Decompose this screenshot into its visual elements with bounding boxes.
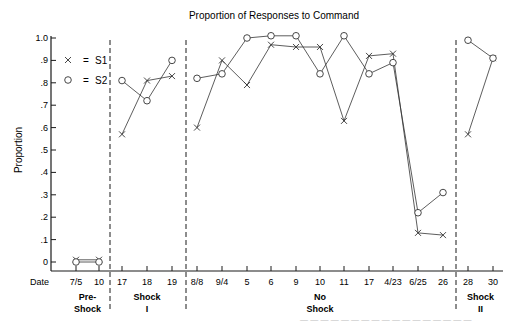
- phase-label: Shock: [467, 292, 495, 302]
- x-tick-label: 26: [438, 277, 448, 287]
- y-tick-label: .3: [40, 190, 48, 200]
- chart-title: Proportion of Responses to Command: [189, 10, 359, 21]
- x-tick-label: 9: [293, 277, 298, 287]
- circle-marker-icon: [293, 32, 300, 39]
- circle-marker-icon: [244, 35, 251, 42]
- x-tick-label: 11: [339, 277, 348, 287]
- y-tick-label: .8: [40, 78, 48, 88]
- x-tick-label: 18: [142, 277, 152, 287]
- phase-label: Shock: [133, 292, 161, 302]
- x-tick-label: 28: [463, 277, 473, 287]
- circle-marker-icon: [144, 97, 151, 104]
- x-tick-label: 7/5: [70, 277, 83, 287]
- x-tick-label: 10: [315, 277, 325, 287]
- x-marker-icon: [119, 131, 125, 137]
- x-axis: 7/5101718198/89/45691011174/236/25262830: [51, 266, 503, 287]
- cropped-caption: — — — — — — — — — — — — — — — — —: [300, 315, 472, 323]
- circle-marker-icon: [219, 71, 226, 78]
- y-tick-label: .7: [40, 100, 48, 110]
- line-chart: Proportion of Responses to Command Propo…: [0, 0, 516, 323]
- phase-dividers: [110, 40, 456, 310]
- phase-label: No: [314, 292, 326, 302]
- circle-marker-icon: [490, 55, 497, 62]
- circle-marker-icon: [169, 57, 176, 64]
- y-tick-label: .6: [40, 123, 48, 133]
- phase-label: Shock: [74, 304, 102, 314]
- x-tick-label: 17: [117, 277, 127, 287]
- x-tick-label: 10: [94, 277, 104, 287]
- x-marker-icon: [65, 57, 71, 63]
- x-marker-icon: [219, 57, 225, 63]
- circle-marker-icon: [317, 71, 324, 78]
- y-tick-label: 1.0: [35, 33, 48, 43]
- phase-label: I: [146, 304, 149, 314]
- circle-marker-icon: [119, 77, 126, 84]
- legend-equals: =: [83, 75, 89, 86]
- x-tick-label: 8/8: [191, 277, 204, 287]
- y-tick-label: .4: [40, 167, 48, 177]
- phase-labels: Pre-ShockShockINoShockShockII: [74, 292, 495, 314]
- x-tick-label: 17: [364, 277, 374, 287]
- phase-label: Shock: [306, 304, 334, 314]
- x-marker-icon: [465, 131, 471, 137]
- circle-marker-icon: [465, 37, 472, 44]
- circle-marker-icon: [440, 189, 447, 196]
- x-axis-label: Date: [30, 277, 49, 287]
- y-tick-label: .5: [40, 145, 48, 155]
- x-tick-label: 19: [167, 277, 177, 287]
- legend-equals: =: [83, 55, 89, 66]
- series-s2: [73, 32, 497, 265]
- y-axis-label: Proportion: [13, 127, 24, 173]
- x-marker-icon: [244, 82, 250, 88]
- circle-marker-icon: [390, 59, 397, 66]
- legend: = S1 = S2: [65, 55, 108, 86]
- x-tick-label: 30: [488, 277, 498, 287]
- circle-marker-icon: [341, 32, 348, 39]
- circle-marker-icon: [366, 71, 373, 78]
- legend-item-s2: = S2: [65, 75, 108, 86]
- circle-marker-icon: [268, 32, 275, 39]
- data-series: [73, 32, 497, 265]
- phase-label: Pre-: [79, 292, 97, 302]
- x-tick-label: 4/23: [384, 277, 402, 287]
- circle-marker-icon: [415, 209, 422, 216]
- x-tick-label: 5: [244, 277, 249, 287]
- circle-marker-icon: [194, 75, 201, 82]
- y-tick-label: .2: [40, 212, 48, 222]
- y-tick-label: .1: [40, 235, 48, 245]
- y-tick-label: .9: [40, 55, 48, 65]
- y-axis: 0.1.2.3.4.5.6.7.8.91.0: [35, 33, 56, 271]
- circle-marker-icon: [96, 259, 103, 266]
- legend-label-s1: S1: [95, 55, 108, 66]
- x-tick-label: 6: [268, 277, 273, 287]
- circle-marker-icon: [65, 77, 72, 84]
- x-marker-icon: [194, 125, 200, 131]
- phase-label: II: [478, 304, 483, 314]
- x-tick-label: 9/4: [216, 277, 229, 287]
- legend-label-s2: S2: [95, 75, 108, 86]
- x-marker-icon: [341, 118, 347, 124]
- x-tick-label: 6/25: [409, 277, 427, 287]
- y-tick-label: 0: [43, 257, 48, 267]
- series-s1: [73, 42, 496, 263]
- legend-item-s1: = S1: [65, 55, 108, 66]
- circle-marker-icon: [73, 259, 80, 266]
